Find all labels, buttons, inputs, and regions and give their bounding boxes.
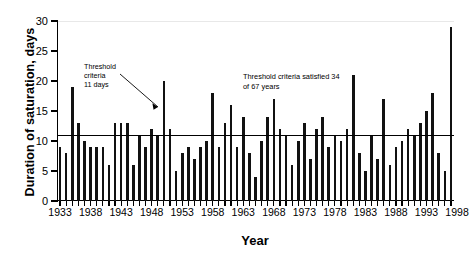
bar bbox=[297, 141, 300, 201]
y-tick-label: 20 bbox=[20, 75, 48, 87]
threshold-annotation-line-1: Threshold bbox=[84, 62, 116, 71]
bar bbox=[450, 27, 453, 201]
bar bbox=[205, 141, 208, 201]
satisfied-annotation-line-2: of 67 years bbox=[243, 82, 340, 92]
bar bbox=[352, 75, 355, 201]
bar bbox=[102, 147, 105, 201]
bar bbox=[444, 171, 447, 201]
satisfied-annotation: Threshold criteria satisfied 34 of 67 ye… bbox=[243, 72, 340, 91]
bar bbox=[83, 141, 86, 201]
bar bbox=[309, 159, 312, 201]
bar bbox=[175, 171, 178, 201]
bar bbox=[59, 147, 62, 201]
bar bbox=[193, 159, 196, 201]
satisfied-annotation-line-1: Threshold criteria satisfied 34 bbox=[243, 72, 340, 82]
bar bbox=[144, 147, 147, 201]
bar bbox=[150, 129, 153, 201]
bar bbox=[156, 135, 159, 201]
bar bbox=[199, 147, 202, 201]
y-tick-label: 25 bbox=[20, 45, 48, 57]
bar bbox=[218, 147, 221, 201]
bar bbox=[236, 147, 239, 201]
bar bbox=[437, 153, 440, 201]
threshold-line bbox=[57, 135, 454, 136]
bar bbox=[89, 147, 92, 201]
y-tick-label: 30 bbox=[20, 15, 48, 27]
bar bbox=[95, 147, 98, 201]
bar bbox=[425, 111, 428, 201]
bar bbox=[266, 117, 269, 201]
bar bbox=[230, 105, 233, 201]
bar bbox=[389, 165, 392, 201]
bar bbox=[364, 171, 367, 201]
bar bbox=[273, 99, 276, 201]
bar bbox=[376, 159, 379, 201]
bar bbox=[71, 87, 74, 201]
bar-series bbox=[57, 21, 454, 201]
x-tick-label: 1998 bbox=[437, 206, 473, 218]
bar bbox=[181, 153, 184, 201]
threshold-annotation-line-3: 11 days bbox=[84, 80, 116, 89]
bar bbox=[260, 141, 263, 201]
bar bbox=[407, 129, 410, 201]
bar bbox=[248, 153, 251, 201]
bar bbox=[327, 147, 330, 201]
bar bbox=[187, 147, 190, 201]
bar bbox=[242, 117, 245, 201]
bar bbox=[279, 129, 282, 201]
bar bbox=[211, 93, 214, 201]
bar bbox=[65, 153, 68, 201]
bar bbox=[315, 129, 318, 201]
y-tick-label: 5 bbox=[20, 165, 48, 177]
bar bbox=[346, 129, 349, 201]
y-tick-label: 15 bbox=[20, 105, 48, 117]
threshold-annotation: Threshold criteria 11 days bbox=[84, 62, 116, 90]
bar bbox=[340, 141, 343, 201]
bar bbox=[132, 165, 135, 201]
bar bbox=[163, 81, 166, 201]
threshold-annotation-line-2: criteria bbox=[84, 71, 116, 80]
bar bbox=[254, 177, 257, 201]
bar bbox=[358, 153, 361, 201]
bar bbox=[413, 135, 416, 201]
bar bbox=[108, 165, 111, 201]
bar bbox=[321, 117, 324, 201]
bar bbox=[370, 135, 373, 201]
bar bbox=[291, 165, 294, 201]
bar bbox=[401, 141, 404, 201]
bar bbox=[334, 135, 337, 201]
bar bbox=[169, 129, 172, 201]
bar bbox=[395, 147, 398, 201]
x-axis-title: Year bbox=[55, 233, 455, 248]
bar bbox=[431, 93, 434, 201]
bar bbox=[285, 135, 288, 201]
bar bbox=[138, 135, 141, 201]
bar bbox=[382, 99, 385, 201]
y-tick-label: 10 bbox=[20, 135, 48, 147]
